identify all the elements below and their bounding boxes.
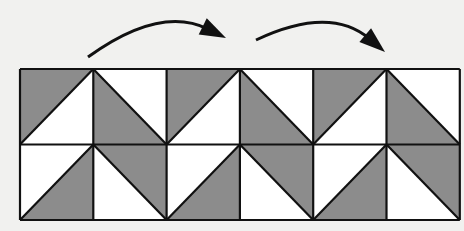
translation-arrow-1-shaft bbox=[88, 21, 208, 57]
translation-arrow-2-shaft bbox=[256, 22, 370, 40]
translation-arrows bbox=[88, 18, 385, 57]
tessellation-diagram bbox=[0, 0, 464, 231]
arrowhead-icon bbox=[199, 18, 226, 38]
arrowhead-icon bbox=[359, 28, 385, 52]
